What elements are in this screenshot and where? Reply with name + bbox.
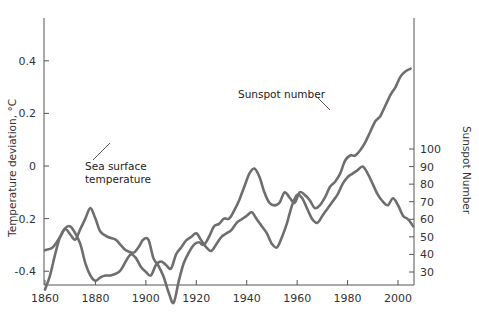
y-tick-label: 0 bbox=[29, 160, 36, 173]
y-axis-left-title: Temperature deviation, °C bbox=[6, 99, 18, 238]
annotation-pointer bbox=[93, 143, 110, 160]
y-right-tick-label: 80 bbox=[420, 178, 434, 191]
y-right-tick-label: 50 bbox=[420, 231, 434, 244]
chart: 0.40.20-0.2-0.4 30405060708090100 186018… bbox=[0, 0, 479, 314]
annotation-sunspot-number: Sunspot number bbox=[238, 88, 326, 100]
x-tick-label: 1860 bbox=[31, 292, 59, 305]
y-right-tick-label: 30 bbox=[420, 266, 434, 279]
y-right-tick-label: 60 bbox=[420, 213, 434, 226]
y-right-tick-label: 40 bbox=[420, 248, 434, 261]
x-tick-label: 1880 bbox=[81, 292, 109, 305]
y-right-tick-label: 70 bbox=[420, 196, 434, 209]
x-tick-label: 1920 bbox=[182, 292, 210, 305]
sea-surface-temperature-line bbox=[45, 69, 411, 303]
y-right-tick-label: 90 bbox=[420, 161, 434, 174]
x-tick-label: 1960 bbox=[283, 292, 311, 305]
x-tick-label: 1940 bbox=[233, 292, 261, 305]
y-tick-label: 0.4 bbox=[19, 55, 37, 68]
series-lines bbox=[45, 69, 413, 303]
y-right-tick-label: 100 bbox=[420, 143, 441, 156]
y-axis-right-title: Sunspot Number bbox=[461, 126, 473, 215]
y-tick-label: -0.4 bbox=[15, 265, 36, 278]
x-tick-label: 2000 bbox=[384, 292, 412, 305]
annotations: Sea surfacetemperatureSunspot number bbox=[85, 88, 330, 185]
x-tick-label: 1980 bbox=[334, 292, 362, 305]
annotation-sea-surface-temperature: Sea surfacetemperature bbox=[85, 160, 151, 185]
x-tick-label: 1900 bbox=[132, 292, 160, 305]
x-axis-ticks: 18601880190019201940196019802000 bbox=[31, 280, 412, 305]
y-tick-label: 0.2 bbox=[19, 107, 37, 120]
